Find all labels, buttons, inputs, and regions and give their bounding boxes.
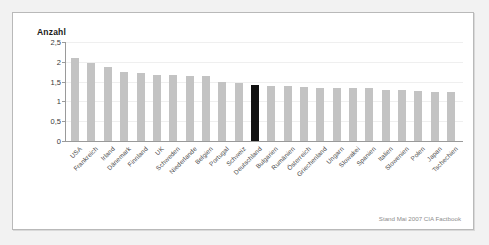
x-axis-labels: USAFrankreichIrlandDänemarkFinnlandUKSch… (65, 143, 463, 201)
y-tick-label: 1 (57, 97, 61, 106)
y-tick-label: 0,5 (51, 117, 61, 126)
x-axis-label-text: UK (153, 145, 164, 156)
bar (120, 72, 128, 141)
source-annotation: Stand Mai 2007 CIA Factbook (379, 215, 461, 222)
y-tick-label: 1,5 (51, 77, 61, 86)
y-tick-label: 0 (57, 137, 61, 146)
y-tick-label: 2,5 (51, 38, 61, 47)
bar (87, 63, 95, 141)
chart-panel: Anzahl 00,511,522,5 USAFrankreichIrlandD… (12, 12, 474, 230)
chart-area: Anzahl 00,511,522,5 USAFrankreichIrlandD… (13, 13, 475, 231)
y-axis-title: Anzahl (37, 27, 66, 37)
plot-bars (65, 42, 463, 141)
bar (169, 75, 177, 141)
y-tick-label: 2 (57, 57, 61, 66)
bar (71, 58, 79, 141)
screenshot-root: Anzahl 00,511,522,5 USAFrankreichIrlandD… (0, 0, 489, 245)
